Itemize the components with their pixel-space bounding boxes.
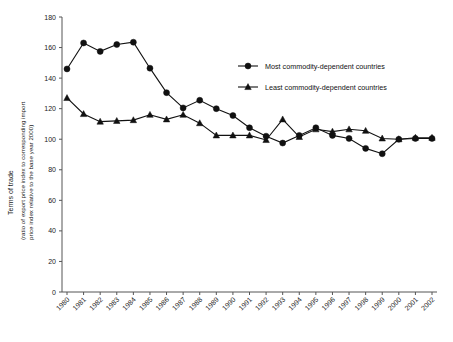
x-tick-label: 1998: [353, 296, 369, 312]
data-point: [81, 40, 87, 46]
data-point: [346, 126, 352, 132]
x-tick-label: 1999: [370, 296, 386, 312]
data-point: [97, 48, 103, 54]
data-point: [197, 97, 203, 103]
x-tick-label: 1985: [138, 296, 154, 312]
x-tick-label: 2000: [387, 296, 403, 312]
y-tick-label: 60: [48, 197, 56, 204]
x-tick-label: 1992: [254, 296, 270, 312]
chart-legend: Most commodity-dependent countriesLeast …: [238, 62, 387, 92]
data-point: [379, 151, 385, 157]
data-point: [64, 95, 70, 101]
y-axis-subtitle-line1: (ratio of export price index to correspo…: [19, 101, 26, 240]
y-tick-label: 160: [44, 44, 56, 51]
x-tick-label: 1997: [337, 296, 353, 312]
legend-marker-circle-icon: [245, 63, 251, 69]
legend-item: Most commodity-dependent countries: [238, 62, 385, 71]
data-point: [180, 105, 186, 111]
x-tick-label: 1984: [121, 296, 137, 312]
data-point: [147, 111, 153, 117]
y-axis-subtitle-line2: price index relative to the base year 20…: [27, 125, 34, 240]
legend-item-label: Least commodity-dependent countries: [265, 83, 387, 92]
x-axis: 1980198119821983198419851986198719881989…: [55, 292, 437, 312]
x-tick-label: 1989: [204, 296, 220, 312]
y-tick-label: 20: [48, 258, 56, 265]
x-tick-label: 1980: [55, 296, 71, 312]
y-tick-label: 120: [44, 105, 56, 112]
terms-of-trade-chart: 020406080100120140160180 198019811982198…: [0, 0, 453, 342]
y-tick-label: 80: [48, 166, 56, 173]
data-point: [164, 90, 170, 96]
x-tick-label: 1996: [320, 296, 336, 312]
x-tick-label: 2002: [420, 296, 436, 312]
x-tick-label: 1990: [221, 296, 237, 312]
data-point: [247, 125, 253, 131]
legend-item: Least commodity-dependent countries: [238, 83, 387, 92]
data-series-group: [64, 39, 435, 157]
data-point: [114, 42, 120, 48]
data-point: [196, 120, 202, 126]
y-tick-label: 40: [48, 227, 56, 234]
data-point: [64, 66, 70, 72]
x-tick-label: 1982: [88, 296, 104, 312]
data-point: [279, 116, 285, 122]
y-tick-label: 180: [44, 14, 56, 21]
data-point: [213, 106, 219, 112]
data-point: [180, 111, 186, 117]
x-tick-label: 1986: [154, 296, 170, 312]
chart-canvas: 020406080100120140160180 198019811982198…: [0, 0, 453, 342]
data-point: [147, 65, 153, 71]
legend-item-label: Most commodity-dependent countries: [265, 62, 385, 71]
y-axis: 020406080100120140160180: [44, 14, 62, 296]
data-point: [230, 113, 236, 119]
y-tick-label: 140: [44, 75, 56, 82]
series-most: [64, 39, 435, 157]
x-tick-label: 1983: [105, 296, 121, 312]
x-tick-label: 1995: [304, 296, 320, 312]
x-tick-label: 1991: [237, 296, 253, 312]
y-tick-label: 0: [52, 289, 56, 296]
axis-titles: Terms of trade (ratio of export price in…: [7, 101, 34, 240]
y-axis-title: Terms of trade: [7, 170, 14, 215]
data-point: [363, 145, 369, 151]
x-tick-label: 1994: [287, 296, 303, 312]
data-point: [346, 135, 352, 141]
x-tick-label: 1987: [171, 296, 187, 312]
x-tick-label: 2001: [403, 296, 419, 312]
x-tick-label: 1993: [270, 296, 286, 312]
x-tick-label: 1988: [187, 296, 203, 312]
series-least: [64, 95, 435, 143]
data-point: [280, 140, 286, 146]
data-point: [130, 39, 136, 45]
x-tick-label: 1981: [71, 296, 87, 312]
y-tick-label: 100: [44, 136, 56, 143]
